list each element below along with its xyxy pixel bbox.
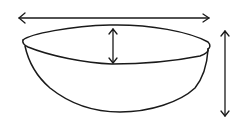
width-arrow (19, 13, 209, 23)
height-arrow (221, 31, 229, 116)
bowl-diagram: bowl (0, 0, 242, 123)
bowl-body (25, 46, 208, 112)
depth-arrow (109, 29, 117, 63)
bowl-drawing (0, 0, 242, 123)
